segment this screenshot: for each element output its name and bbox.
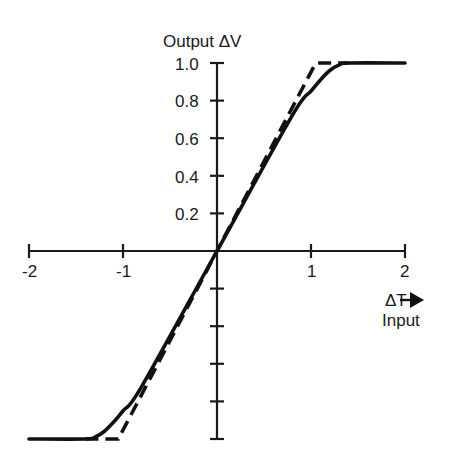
x-tick-label: 2 — [400, 262, 409, 281]
y-tick-label: 1.0 — [175, 55, 199, 74]
x-tick-label: 1 — [307, 262, 316, 281]
transfer-function-chart: Output ΔV ΔT Input 1.0 0.8 0.6 0.4 0.2 -… — [0, 0, 461, 465]
arrow-right-icon — [410, 292, 424, 308]
y-axis-title: Output ΔV — [163, 32, 242, 51]
y-tick-label: 0.6 — [175, 130, 199, 149]
x-tick-label: -1 — [116, 262, 131, 281]
x-axis-subtitle: Input — [382, 311, 420, 330]
y-tick-label: 0.2 — [175, 205, 199, 224]
x-tick-label: -2 — [22, 262, 37, 281]
y-tick-label: 0.8 — [175, 92, 199, 111]
y-tick-label: 0.4 — [175, 168, 199, 187]
